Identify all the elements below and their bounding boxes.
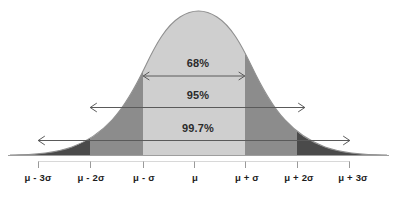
axis-label-plus-2-sigma: μ + 2σ xyxy=(284,172,314,183)
band-middle-left xyxy=(90,0,143,158)
distribution-shaded-bands xyxy=(0,0,397,158)
normal-distribution-figure: 68% 95% 99.7% xyxy=(0,0,397,198)
interval-95-label: 95% xyxy=(187,89,210,101)
interval-68-label: 68% xyxy=(187,57,210,69)
band-outer-left xyxy=(0,0,90,158)
axis-tick-labels: μ - 3σ μ - 2σ μ - σ μ μ + σ μ + 2σ μ + 3… xyxy=(24,172,368,183)
axis-label-plus-3-sigma: μ + 3σ xyxy=(338,172,368,183)
axis-label-minus-2-sigma: μ - 2σ xyxy=(77,172,105,183)
axis-label-minus-3-sigma: μ - 3σ xyxy=(24,172,52,183)
axis-tick-marks xyxy=(38,162,350,169)
band-middle-right xyxy=(245,0,297,158)
axis-label-plus-1-sigma: μ + σ xyxy=(235,172,259,183)
band-inner xyxy=(143,0,245,158)
band-outer-right xyxy=(297,0,397,158)
axis-label-minus-1-sigma: μ - σ xyxy=(133,172,155,183)
interval-997-label: 99.7% xyxy=(182,122,214,134)
axis-label-mu: μ xyxy=(192,172,198,183)
